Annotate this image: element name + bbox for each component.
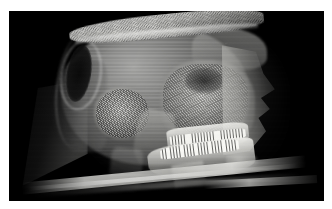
volume-render-canvas (9, 11, 324, 201)
orbital-socket (185, 68, 223, 93)
ct-image-viewer[interactable] (9, 11, 324, 201)
